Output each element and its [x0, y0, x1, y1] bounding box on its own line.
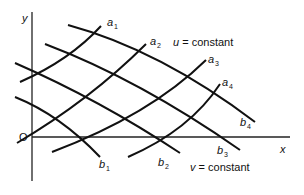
curve-a4: [128, 84, 220, 157]
svg-text:3: 3: [215, 60, 219, 67]
svg-text:b: b: [99, 158, 105, 170]
svg-text:1: 1: [106, 165, 110, 172]
svg-text:u = constant: u = constant: [173, 36, 233, 48]
v-constant-legend: v = constant: [190, 161, 250, 173]
svg-text:b: b: [240, 116, 246, 128]
origin-label: O: [19, 131, 28, 143]
label-a4: a 4: [222, 76, 233, 90]
svg-text:1: 1: [114, 23, 118, 30]
curve-b1: [15, 97, 100, 157]
svg-text:a: a: [107, 16, 113, 28]
svg-text:a: a: [222, 76, 228, 88]
svg-text:b: b: [158, 156, 164, 168]
svg-text:2: 2: [165, 163, 169, 170]
coordinate-diagram: y O x a 1 a 2 a 3 a 4 b 1 b 2 b 3 b 4 u …: [0, 0, 304, 195]
u-constant-legend: u = constant: [173, 36, 233, 48]
label-a3: a 3: [208, 53, 219, 67]
y-axis-label: y: [21, 12, 29, 24]
label-b1: b 1: [99, 158, 110, 172]
svg-text:a: a: [150, 35, 156, 47]
svg-text:a: a: [208, 53, 214, 65]
svg-text:3: 3: [224, 151, 228, 158]
label-b2: b 2: [158, 156, 169, 170]
label-a2: a 2: [150, 35, 161, 49]
svg-text:4: 4: [229, 83, 233, 90]
x-axis-label: x: [279, 143, 286, 155]
svg-text:b: b: [217, 144, 223, 156]
label-b3: b 3: [217, 144, 228, 158]
svg-text:v = constant: v = constant: [190, 161, 250, 173]
svg-text:2: 2: [157, 42, 161, 49]
label-a1: a 1: [107, 16, 118, 30]
svg-text:4: 4: [247, 123, 251, 130]
